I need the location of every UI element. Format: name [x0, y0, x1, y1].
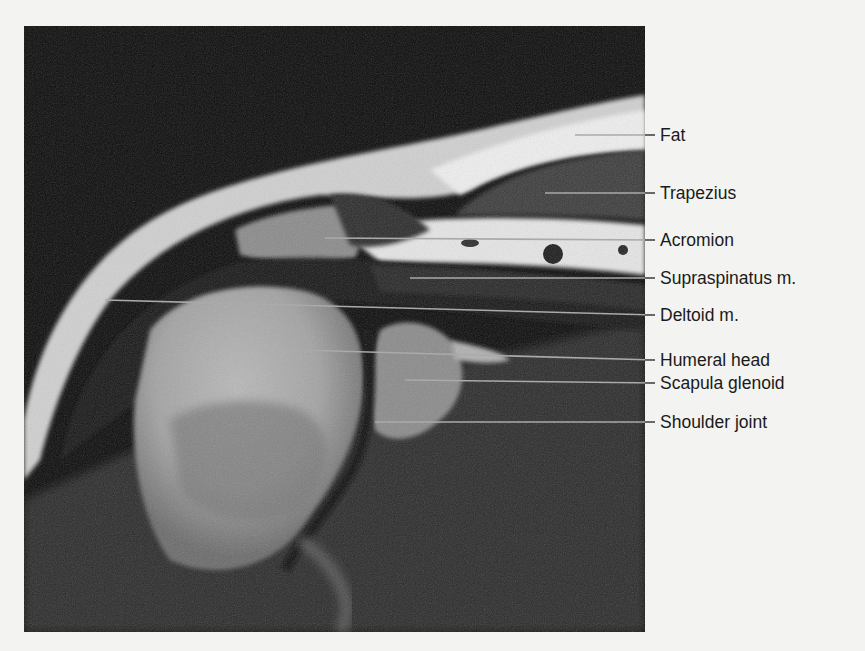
label-trapezius: Trapezius [660, 183, 736, 203]
label-humeral-head: Humeral head [660, 350, 770, 370]
mri-image [24, 26, 645, 632]
label-supraspinatus: Supraspinatus m. [660, 268, 796, 288]
label-shoulder-joint: Shoulder joint [660, 412, 767, 432]
label-scapula-glenoid: Scapula glenoid [660, 373, 785, 393]
mri-figure: Fat Trapezius Acromion Supraspinatus m. … [0, 0, 865, 651]
label-deltoid: Deltoid m. [660, 305, 739, 325]
label-fat: Fat [660, 125, 685, 145]
label-acromion: Acromion [660, 230, 734, 250]
mri-anatomy-illustration [24, 26, 645, 632]
